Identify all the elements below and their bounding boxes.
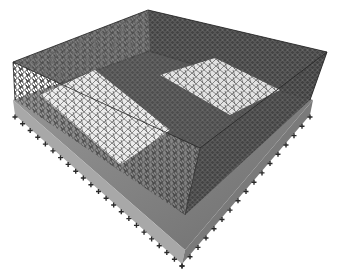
support-marker-icon (180, 264, 185, 269)
mesh-rendering (0, 0, 339, 280)
